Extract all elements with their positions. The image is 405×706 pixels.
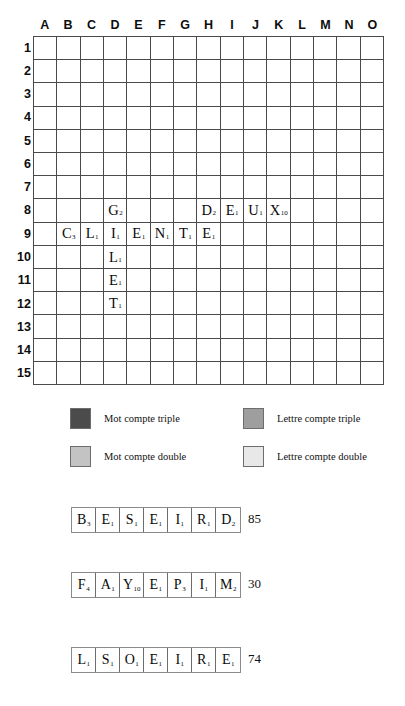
board-cell-C9[interactable]: L1	[81, 223, 104, 246]
board-cell-H11[interactable]	[197, 269, 220, 292]
board-cell-E2[interactable]	[127, 60, 150, 83]
board-cell-E11[interactable]	[127, 269, 150, 292]
rack-2-tile-1[interactable]: F4	[72, 573, 96, 597]
board-cell-I15[interactable]	[221, 362, 244, 385]
board-cell-E8[interactable]	[127, 199, 150, 222]
board-cell-E13[interactable]	[127, 315, 150, 338]
board-cell-L8[interactable]	[291, 199, 314, 222]
board-cell-D3[interactable]	[104, 83, 127, 106]
board-cell-A10[interactable]	[34, 246, 57, 269]
board-cell-K8[interactable]: X10	[267, 199, 290, 222]
board-cell-M13[interactable]	[314, 315, 337, 338]
board-cell-A9[interactable]	[34, 223, 57, 246]
board-cell-E5[interactable]	[127, 130, 150, 153]
board-cell-K10[interactable]	[267, 246, 290, 269]
board-cell-M5[interactable]	[314, 130, 337, 153]
board-cell-H5[interactable]	[197, 130, 220, 153]
board-cell-M1[interactable]	[314, 37, 337, 60]
board-cell-D10[interactable]: L1	[104, 246, 127, 269]
rack-3-tile-7[interactable]: E1	[216, 648, 240, 672]
board-cell-C1[interactable]	[81, 37, 104, 60]
board-cell-F5[interactable]	[151, 130, 174, 153]
board-cell-J15[interactable]	[244, 362, 267, 385]
board-cell-D2[interactable]	[104, 60, 127, 83]
board-cell-I12[interactable]	[221, 292, 244, 315]
board-cell-J1[interactable]	[244, 37, 267, 60]
board-cell-H2[interactable]	[197, 60, 220, 83]
board-cell-O3[interactable]	[361, 83, 384, 106]
board-cell-O5[interactable]	[361, 130, 384, 153]
board-cell-G9[interactable]: T1	[174, 223, 197, 246]
rack-1-tile-4[interactable]: E1	[144, 508, 168, 532]
board-cell-D14[interactable]	[104, 339, 127, 362]
board-cell-C15[interactable]	[81, 362, 104, 385]
board-cell-L2[interactable]	[291, 60, 314, 83]
board-cell-N12[interactable]	[337, 292, 360, 315]
rack-1-tile-6[interactable]: R1	[192, 508, 216, 532]
board-cell-K7[interactable]	[267, 176, 290, 199]
board-cell-O11[interactable]	[361, 269, 384, 292]
board-cell-B13[interactable]	[57, 315, 80, 338]
board-cell-J7[interactable]	[244, 176, 267, 199]
board-cell-F2[interactable]	[151, 60, 174, 83]
rack-2-tile-3[interactable]: Y10	[120, 573, 144, 597]
board-cell-I1[interactable]	[221, 37, 244, 60]
rack-1-tile-5[interactable]: I1	[168, 508, 192, 532]
board-cell-M10[interactable]	[314, 246, 337, 269]
board-cell-O6[interactable]	[361, 153, 384, 176]
board-cell-J5[interactable]	[244, 130, 267, 153]
board-cell-A1[interactable]	[34, 37, 57, 60]
board-cell-I11[interactable]	[221, 269, 244, 292]
board-cell-G11[interactable]	[174, 269, 197, 292]
board-cell-O14[interactable]	[361, 339, 384, 362]
board-cell-M15[interactable]	[314, 362, 337, 385]
board-cell-H14[interactable]	[197, 339, 220, 362]
rack-3-tile-6[interactable]: R1	[192, 648, 216, 672]
board-cell-J6[interactable]	[244, 153, 267, 176]
board-cell-L14[interactable]	[291, 339, 314, 362]
board-cell-O1[interactable]	[361, 37, 384, 60]
board-cell-J9[interactable]	[244, 223, 267, 246]
board-cell-N14[interactable]	[337, 339, 360, 362]
board-cell-F6[interactable]	[151, 153, 174, 176]
board-cell-L4[interactable]	[291, 107, 314, 130]
board-cell-H3[interactable]	[197, 83, 220, 106]
board-cell-E14[interactable]	[127, 339, 150, 362]
board-cell-K15[interactable]	[267, 362, 290, 385]
rack-2-tile-5[interactable]: P3	[168, 573, 192, 597]
board-cell-K1[interactable]	[267, 37, 290, 60]
board-cell-D4[interactable]	[104, 107, 127, 130]
board-cell-D5[interactable]	[104, 130, 127, 153]
board-cell-B9[interactable]: C3	[57, 223, 80, 246]
board-cell-B4[interactable]	[57, 107, 80, 130]
board-cell-F8[interactable]	[151, 199, 174, 222]
board-cell-A12[interactable]	[34, 292, 57, 315]
board-cell-N9[interactable]	[337, 223, 360, 246]
board-cell-E7[interactable]	[127, 176, 150, 199]
board-cell-E12[interactable]	[127, 292, 150, 315]
board-cell-C3[interactable]	[81, 83, 104, 106]
board-cell-C2[interactable]	[81, 60, 104, 83]
board-cell-B8[interactable]	[57, 199, 80, 222]
board-cell-A7[interactable]	[34, 176, 57, 199]
board-cell-N3[interactable]	[337, 83, 360, 106]
board-cell-H15[interactable]	[197, 362, 220, 385]
board-cell-J12[interactable]	[244, 292, 267, 315]
board-cell-B3[interactable]	[57, 83, 80, 106]
board-cell-J14[interactable]	[244, 339, 267, 362]
board-cell-I9[interactable]	[221, 223, 244, 246]
board-cell-N11[interactable]	[337, 269, 360, 292]
board-cell-G13[interactable]	[174, 315, 197, 338]
board-cell-L9[interactable]	[291, 223, 314, 246]
board-cell-I4[interactable]	[221, 107, 244, 130]
board-cell-E3[interactable]	[127, 83, 150, 106]
board-cell-J11[interactable]	[244, 269, 267, 292]
board-cell-F11[interactable]	[151, 269, 174, 292]
board-cell-L7[interactable]	[291, 176, 314, 199]
board-cell-F12[interactable]	[151, 292, 174, 315]
board-cell-O9[interactable]	[361, 223, 384, 246]
board-cell-I3[interactable]	[221, 83, 244, 106]
board-cell-K11[interactable]	[267, 269, 290, 292]
board-cell-E1[interactable]	[127, 37, 150, 60]
board-cell-L15[interactable]	[291, 362, 314, 385]
